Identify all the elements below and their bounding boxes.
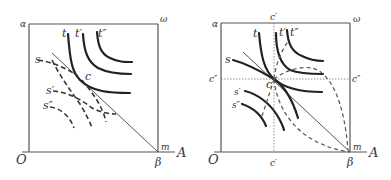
label-omega: ω (160, 14, 168, 24)
label-t: t (253, 27, 258, 40)
label-origin: O (208, 152, 219, 167)
price-line (52, 53, 158, 152)
label-alpha: α (20, 19, 26, 29)
dashed-curve-s-double-prime (50, 107, 74, 128)
label-beta: β (154, 156, 161, 169)
label-m: m (161, 142, 170, 152)
label-origin: O (16, 152, 27, 167)
indifference-curve-t-prime (276, 33, 323, 74)
label-c-double-prime-left: c″ (209, 74, 218, 84)
label-s: s (225, 53, 231, 66)
label-t-prime: t′ (75, 27, 82, 40)
label-beta: β (346, 156, 353, 169)
label-A: A (176, 145, 186, 160)
label-omega: ω (353, 14, 361, 24)
label-A: A (368, 145, 378, 160)
label-s: s (35, 53, 41, 66)
offer-curve-upper (274, 67, 348, 150)
left-panel: α ω O β m A t t′ t″ s s′ s″ c (16, 14, 186, 169)
label-s-prime: s′ (234, 87, 241, 97)
indifference-curve-t-prime (83, 34, 131, 74)
label-t-double-prime: t″ (290, 26, 299, 39)
label-s-double-prime: s″ (232, 100, 241, 110)
label-c-prime-bottom: c′ (270, 158, 277, 168)
label-c: c (266, 78, 272, 91)
label-s-prime: s′ (46, 84, 55, 97)
label-c: c (85, 70, 91, 83)
label-m: m (353, 142, 362, 152)
label-t-double-prime: t″ (98, 27, 107, 40)
label-s-double-prime: s″ (43, 99, 54, 112)
label-t: t (62, 27, 67, 40)
dashed-offer-curve-2 (82, 80, 106, 122)
price-line (243, 52, 350, 152)
edgeworth-box-figure: α ω O β m A t t′ t″ s s′ s″ c (0, 0, 391, 180)
label-c-prime-top: c′ (270, 12, 277, 22)
right-panel: α ω O β m A c′ c′ c″ c″ t t′ t″ s s′ s″ … (208, 12, 378, 169)
label-t-prime: t′ (279, 26, 286, 39)
label-c-double-prime-right: c″ (352, 74, 361, 84)
label-alpha: α (212, 19, 218, 29)
